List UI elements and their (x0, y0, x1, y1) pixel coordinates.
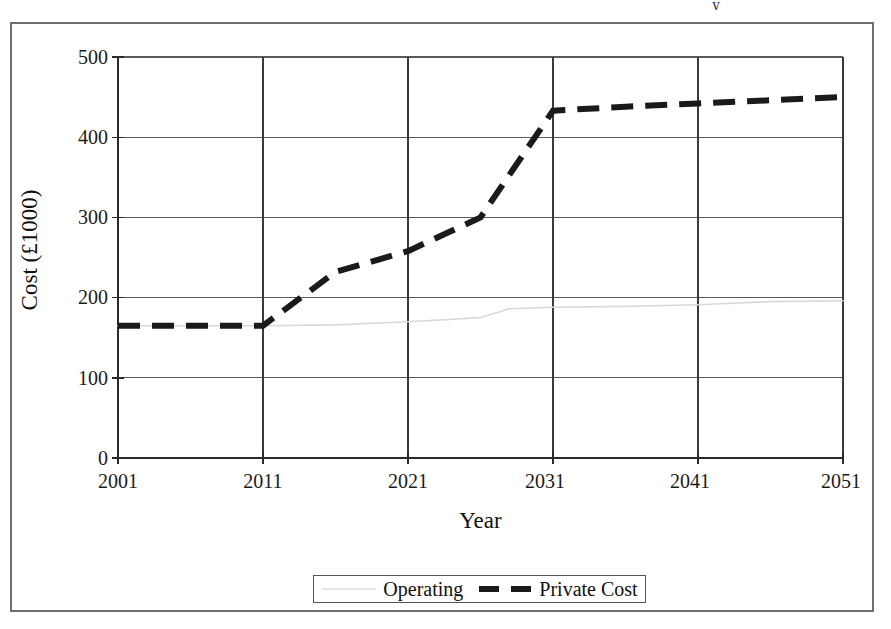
legend-label-operating: Operating (383, 579, 463, 599)
chart-area: 0 100 200 300 400 500 2001 2011 2021 203… (0, 0, 891, 629)
ytick-label-100: 100 (48, 368, 108, 388)
legend-entry-private-cost: Private Cost (477, 579, 637, 599)
ytick-label-0: 0 (48, 448, 108, 468)
chart-plot (0, 0, 891, 629)
legend-swatch-private-cost-icon (477, 582, 533, 596)
xtick-label-2031: 2031 (495, 471, 595, 491)
y-axis-title: Cost (£1000) (18, 140, 42, 360)
ytick-label-200: 200 (48, 287, 108, 307)
xtick-label-2041: 2041 (640, 471, 740, 491)
ytick-label-500: 500 (48, 47, 108, 67)
ytick-label-300: 300 (48, 207, 108, 227)
plot-background (118, 57, 843, 458)
xtick-label-2001: 2001 (68, 471, 168, 491)
x-axis-title: Year (118, 508, 843, 534)
legend-swatch-operating-icon (321, 582, 377, 596)
xtick-label-2051: 2051 (791, 471, 891, 491)
ytick-label-400: 400 (48, 127, 108, 147)
legend-entry-operating: Operating (321, 579, 463, 599)
xtick-label-2011: 2011 (213, 471, 313, 491)
chart-legend: Operating Private Cost (313, 575, 646, 603)
xtick-label-2021: 2021 (358, 471, 458, 491)
legend-label-private-cost: Private Cost (539, 579, 637, 599)
